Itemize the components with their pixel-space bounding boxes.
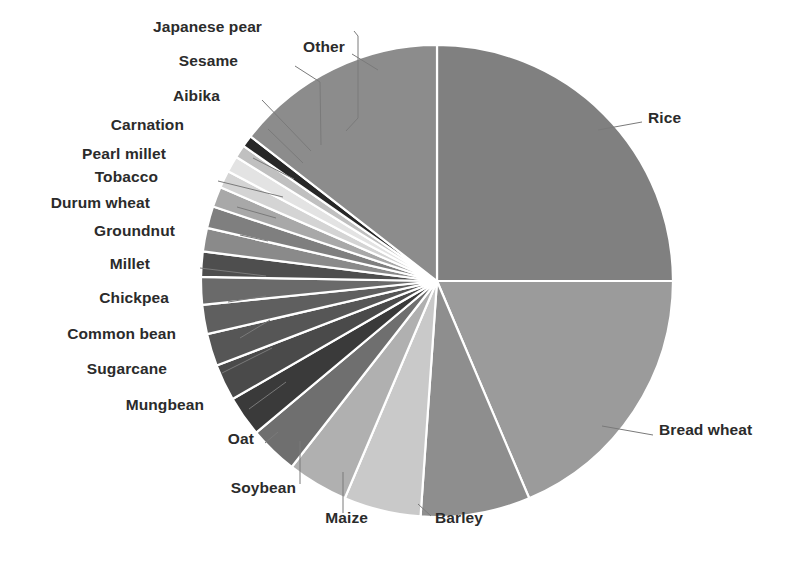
pie-slice-group: [201, 45, 673, 517]
label-oat: Oat: [228, 431, 254, 447]
pie-chart-figure: Japanese pearOtherSesameAibikaCarnationP…: [0, 0, 790, 561]
pie-slice-rice[interactable]: [437, 45, 673, 281]
label-sugarcane: Sugarcane: [87, 361, 167, 377]
label-durum-wheat: Durum wheat: [51, 195, 150, 211]
label-maize: Maize: [325, 510, 368, 526]
pie-chart-svg: [0, 0, 790, 561]
label-pearl-millet: Pearl millet: [82, 146, 166, 162]
label-common-bean: Common bean: [67, 326, 176, 342]
label-soybean: Soybean: [231, 480, 296, 496]
label-other: Other: [303, 39, 345, 55]
label-bread-wheat: Bread wheat: [659, 422, 752, 438]
label-rice: Rice: [648, 110, 681, 126]
label-chickpea: Chickpea: [99, 290, 169, 306]
label-groundnut: Groundnut: [94, 223, 175, 239]
label-carnation: Carnation: [111, 117, 184, 133]
label-japanese-pear: Japanese pear: [153, 19, 262, 35]
label-barley: Barley: [435, 510, 483, 526]
label-aibika: Aibika: [173, 88, 220, 104]
label-tobacco: Tobacco: [95, 169, 158, 185]
label-mungbean: Mungbean: [126, 397, 204, 413]
label-millet: Millet: [110, 256, 150, 272]
label-sesame: Sesame: [179, 53, 238, 69]
